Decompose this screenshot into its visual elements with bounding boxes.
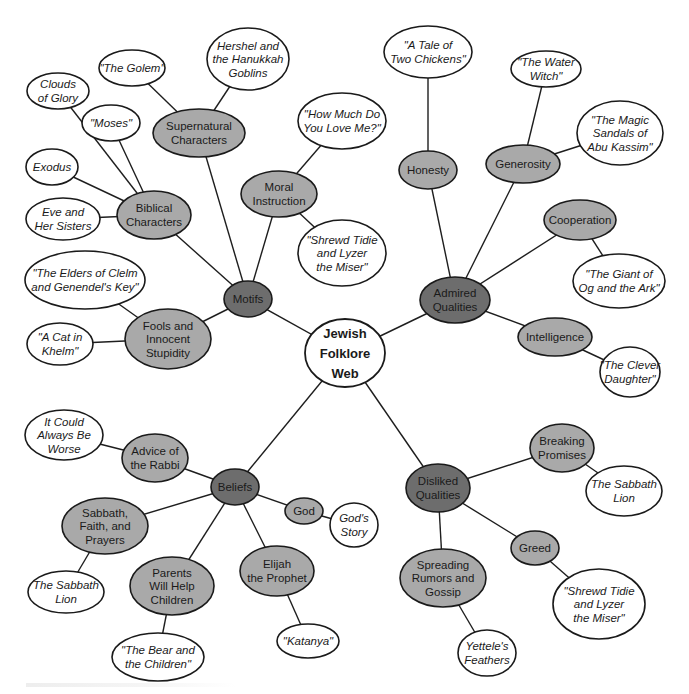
node-label-line: Worse (47, 443, 80, 455)
node-label-line: The Sabbath (33, 579, 99, 591)
node-label-line: Children (151, 594, 194, 606)
node-label-line: Two Chickens" (390, 53, 466, 65)
node-label-line: "How Much Do (304, 108, 381, 120)
node-label-line: Folklore (320, 346, 371, 361)
node-label-line: Honesty (407, 164, 449, 176)
node-label-line: "The Elders of Clelm (32, 267, 137, 279)
node-yettele: Yettele'sFeathers (458, 630, 516, 676)
node-label-line: Spreading (417, 559, 469, 571)
node-label-line: Elijah (263, 558, 291, 570)
node-god: God (285, 498, 323, 524)
node-clever: "The CleverDaughter" (600, 347, 661, 397)
node-chickens: "A Tale ofTwo Chickens" (384, 26, 472, 78)
node-parents: ParentsWill HelpChildren (130, 557, 214, 615)
node-label-line: and Genendel's Key" (31, 281, 139, 293)
node-golem: "The Golem" (99, 50, 165, 86)
node-label-line: Her Sisters (35, 220, 92, 232)
node-label-line: "Shrewd Tidie (563, 585, 634, 597)
node-label-line: the Miser" (573, 612, 625, 624)
node-elijah: Elijahthe Prophet (240, 546, 314, 596)
node-label-line: Admired (434, 287, 477, 299)
node-sandals: "The MagicSandals ofAbu Kassim" (577, 101, 663, 165)
node-bear: "The Bear andthe Children" (112, 633, 204, 681)
node-label-line: "The Giant of (585, 268, 654, 280)
node-generosity: Generosity (486, 145, 560, 183)
node-label-line: and Lyzer (574, 598, 625, 610)
node-label-line: Jewish (323, 326, 366, 341)
node-label-line: Gossip (425, 586, 461, 598)
node-label-line: Prayers (85, 534, 125, 546)
node-katanya: "Katanya" (277, 624, 339, 658)
node-lion2: The SabbathLion (586, 466, 662, 516)
node-lion1: The SabbathLion (28, 571, 104, 613)
node-label-line: Clouds (40, 78, 76, 90)
node-moral: MoralInstruction (241, 171, 317, 217)
node-label-line: Goblins (229, 67, 268, 79)
cropped-caption-fragment (26, 683, 236, 687)
node-supernatural: SupernaturalCharacters (153, 109, 245, 157)
node-label-line: Cooperation (549, 214, 612, 226)
node-shrewd2: "Shrewd Tidieand Lyzerthe Miser" (553, 569, 645, 639)
node-label-line: Moral (265, 181, 294, 193)
node-motifs: Motifs (224, 281, 272, 317)
node-greed: Greed (511, 531, 559, 565)
node-beliefs: Beliefs (211, 469, 259, 505)
node-biblical: BiblicalCharacters (117, 191, 191, 239)
node-label-line: Greed (519, 542, 551, 554)
node-label-line: Sabbath, (82, 507, 128, 519)
node-label-line: Instruction (252, 195, 305, 207)
node-honesty: Honesty (399, 151, 457, 189)
node-label-line: You Love Me?" (303, 122, 382, 134)
node-label-line: "The Water (517, 56, 576, 68)
edge-motifs-supernatural (199, 133, 248, 299)
node-label-line: Exodus (33, 161, 72, 173)
node-label-line: Yettele's (465, 640, 508, 652)
node-label-line: Feathers (464, 654, 510, 666)
node-giant: "The Giant ofOg and the Ark" (573, 254, 665, 308)
node-label-line: Khelm" (42, 345, 80, 357)
node-rumors: SpreadingRumors andGossip (400, 549, 486, 607)
node-label-line: the Children" (125, 658, 192, 670)
node-label-line: Generosity (495, 158, 551, 170)
node-label-line: Characters (171, 134, 227, 146)
node-label-line: the Prophet (247, 572, 307, 584)
node-label-line: "A Tale of (404, 39, 454, 51)
node-label-line: Intelligence (526, 331, 584, 343)
node-label-line: Parents (152, 567, 192, 579)
node-label-line: Stupidity (146, 347, 190, 359)
node-exodus: Exodus (26, 149, 78, 185)
node-label-line: Biblical (136, 202, 172, 214)
node-label-line: of Glory (38, 92, 80, 104)
node-label-line: Promises (538, 449, 586, 461)
node-admired: AdmiredQualities (420, 277, 490, 323)
node-label-line: the Miser" (316, 261, 368, 273)
node-label-line: Story (341, 526, 369, 538)
node-label-line: Motifs (233, 293, 264, 305)
node-rabbi: Advice ofthe Rabbi (122, 434, 188, 482)
node-label-line: Witch" (530, 70, 564, 82)
node-label-line: Hershel and (217, 40, 280, 52)
node-label-line: Faith, and (79, 520, 130, 532)
node-intelligence: Intelligence (518, 318, 592, 356)
node-label-line: "A Cat in (38, 331, 83, 343)
node-label-line: God's (339, 512, 369, 524)
node-label-line: Breaking (539, 435, 584, 447)
node-label-line: "Moses" (90, 117, 133, 129)
node-shrewd1: "Shrewd Tidieand Lyzerthe Miser" (298, 220, 386, 286)
node-label-line: Beliefs (218, 481, 253, 493)
node-moses: "Moses" (82, 105, 140, 141)
node-label-line: "The Magic (591, 114, 649, 126)
node-label-line: God (293, 505, 315, 517)
node-label-line: Disliked (418, 475, 458, 487)
node-label-line: Abu Kassim" (586, 141, 653, 153)
node-label-line: and Lyzer (317, 247, 368, 259)
node-waterwitch: "The WaterWitch" (511, 51, 581, 87)
node-label-line: Sandals of (593, 127, 649, 139)
node-root: JewishFolkloreWeb (305, 319, 385, 387)
node-clouds: Cloudsof Glory (27, 73, 89, 109)
node-label-line: the Rabbi (130, 459, 179, 471)
node-cat: "A Cat inKhelm" (27, 323, 93, 365)
node-howmuch: "How Much DoYou Love Me?" (298, 93, 386, 149)
node-elders: "The Elders of Clelmand Genendel's Key" (25, 251, 145, 309)
node-label-line: Lion (613, 492, 635, 504)
